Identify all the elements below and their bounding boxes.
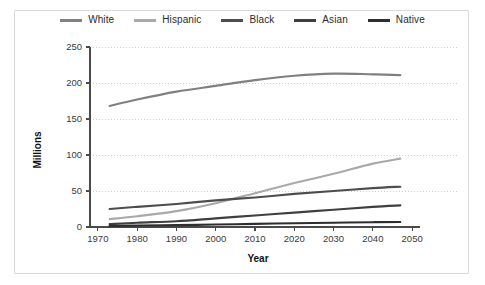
chart-plot-area: 050100150200250 197019801990200020102020… xyxy=(0,0,485,285)
x-tick-label: 1980 xyxy=(127,233,148,244)
x-tick-label: 2030 xyxy=(323,233,344,244)
gridlines xyxy=(90,47,457,191)
series-line-black xyxy=(110,187,401,209)
x-axis-title: Year xyxy=(247,253,268,264)
line-chart-svg: 050100150200250 197019801990200020102020… xyxy=(0,0,485,285)
y-tick-label: 100 xyxy=(66,149,82,160)
y-axis-title: Millions xyxy=(32,131,43,169)
x-tick-label: 2000 xyxy=(205,233,226,244)
y-tick-label: 250 xyxy=(66,41,82,52)
chart-screenshot: WhiteHispanicBlackAsianNative 0501001502… xyxy=(0,0,485,285)
x-axis-ticks: 197019801990200020102020203020402050 xyxy=(87,227,422,244)
y-tick-label: 50 xyxy=(71,185,82,196)
x-tick-label: 2020 xyxy=(284,233,305,244)
y-tick-label: 0 xyxy=(77,221,82,232)
y-tick-label: 150 xyxy=(66,113,82,124)
series-line-white xyxy=(110,74,401,106)
x-tick-label: 1990 xyxy=(166,233,187,244)
x-tick-label: 1970 xyxy=(87,233,108,244)
y-tick-label: 200 xyxy=(66,77,82,88)
y-axis-ticks: 050100150200250 xyxy=(66,41,90,232)
x-tick-label: 2040 xyxy=(362,233,383,244)
x-tick-label: 2010 xyxy=(244,233,265,244)
x-tick-label: 2050 xyxy=(402,233,423,244)
data-series xyxy=(110,74,401,226)
